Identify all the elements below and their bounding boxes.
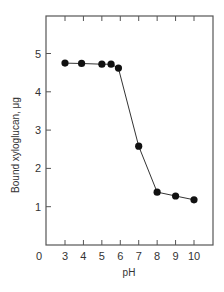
axes-box <box>46 16 213 245</box>
data-point <box>135 143 142 150</box>
x-tick-label: 7 <box>136 250 142 262</box>
plot-frame <box>46 16 213 245</box>
x-tick-label: 9 <box>173 250 179 262</box>
data-point <box>154 189 161 196</box>
x-tick-label: 5 <box>99 250 105 262</box>
origin-label: 0 <box>36 250 42 262</box>
data-point <box>190 196 197 203</box>
x-tick-label: 6 <box>117 250 123 262</box>
data-point <box>78 60 85 67</box>
x-tick-label: 8 <box>154 250 160 262</box>
data-point <box>107 61 114 68</box>
x-tick-label: 4 <box>80 250 86 262</box>
y-tick-label: 4 <box>35 86 41 98</box>
y-tick-label: 5 <box>35 48 41 60</box>
data-point <box>172 192 179 199</box>
tick-labels: 345678910012345 <box>35 48 200 263</box>
chart: 345678910012345 pH Bound xyloglucan, μg <box>0 0 224 292</box>
x-tick-label: 3 <box>62 250 68 262</box>
series-line <box>65 63 194 200</box>
data-series <box>61 59 197 203</box>
data-point <box>98 61 105 68</box>
axis-ticks <box>46 16 194 245</box>
data-point <box>61 59 68 66</box>
data-point <box>115 64 122 71</box>
y-tick-label: 2 <box>35 162 41 174</box>
x-tick-label: 10 <box>188 250 200 262</box>
x-axis-label: pH <box>123 267 136 278</box>
y-tick-label: 3 <box>35 124 41 136</box>
y-tick-label: 1 <box>35 201 41 213</box>
y-axis-label: Bound xyloglucan, μg <box>10 97 21 193</box>
